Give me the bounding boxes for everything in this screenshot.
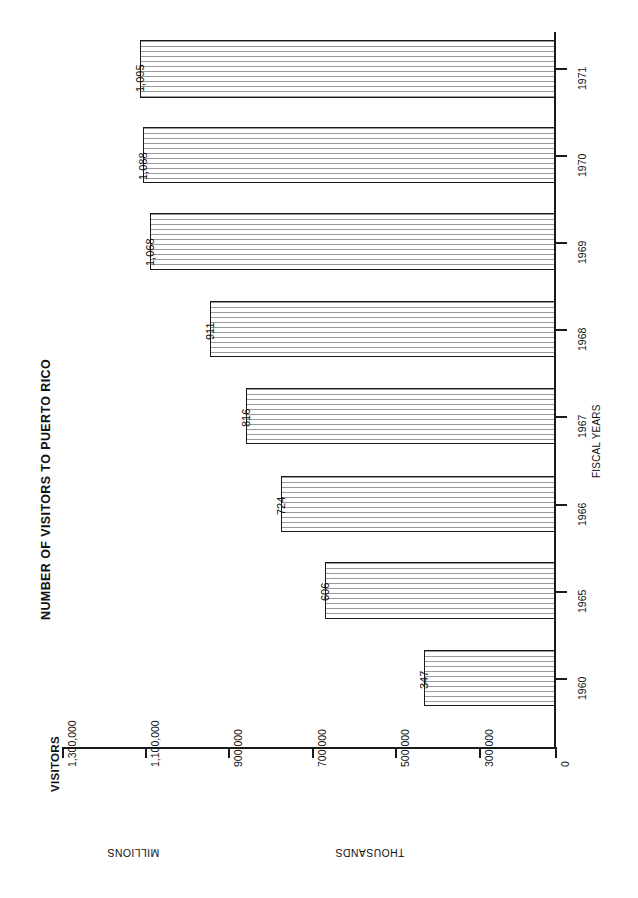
category-tick: [556, 329, 567, 331]
bar-value-label: 911: [205, 322, 216, 340]
value-tick: [228, 747, 230, 758]
category-tick-label: 1969: [577, 241, 588, 264]
bar: [424, 650, 555, 706]
scale-band-thousands: THOUSANDS: [335, 847, 405, 858]
bar-value-label: 724: [276, 497, 287, 515]
value-axis-line: [62, 747, 556, 749]
value-tick: [312, 747, 314, 758]
category-tick: [556, 591, 567, 593]
bar: [325, 562, 555, 619]
category-tick: [556, 155, 567, 157]
value-tick: [395, 747, 397, 758]
bar: [210, 301, 555, 357]
plot-area: 1,0951,0881,068911816724606347 1,300,000…: [0, 0, 638, 898]
bar-value-label: 606: [320, 583, 331, 601]
category-tick: [556, 678, 567, 680]
chart-page: NUMBER OF VISITORS TO PUERTO RICO VISITO…: [0, 0, 638, 898]
value-tick-label: 900,000: [233, 729, 244, 767]
category-tick: [556, 416, 567, 418]
scale-band-millions: MILLIONS: [107, 847, 159, 858]
bar-value-label: 816: [241, 409, 252, 427]
category-tick-label: 1967: [577, 415, 588, 438]
bar-value-label: 1,095: [135, 64, 146, 92]
value-tick: [555, 747, 557, 758]
category-tick: [556, 504, 567, 506]
bar-value-label: 347: [419, 671, 430, 689]
category-tick-label: 1968: [577, 328, 588, 351]
bar: [143, 127, 555, 183]
value-tick-label: 1,300,000: [67, 720, 78, 767]
category-tick-label: 1965: [577, 590, 588, 613]
value-tick-label: 700,000: [317, 729, 328, 767]
bar: [140, 40, 555, 98]
bar: [246, 388, 555, 444]
category-tick: [556, 242, 567, 244]
value-tick-label: 500,000: [400, 729, 411, 767]
value-tick-label: 300,000: [484, 729, 495, 767]
bar-value-label: 1,088: [138, 152, 149, 180]
category-tick-label: 1971: [577, 67, 588, 90]
value-tick: [62, 747, 64, 758]
bar-value-label: 1,068: [145, 238, 156, 266]
value-tick: [479, 747, 481, 758]
category-tick-label: 1966: [577, 503, 588, 526]
bar: [150, 213, 555, 270]
bar: [281, 476, 555, 532]
value-tick-label: 1,100,000: [150, 720, 161, 767]
category-tick-label: 1960: [577, 677, 588, 700]
value-tick-label: 0: [560, 761, 571, 767]
category-tick: [556, 68, 567, 70]
category-tick-label: 1970: [577, 154, 588, 177]
value-tick: [145, 747, 147, 758]
